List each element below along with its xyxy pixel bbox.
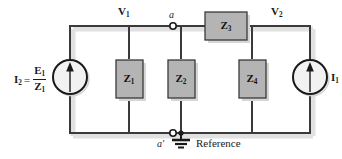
source-label-left: I2 = E1 Z1 <box>14 65 46 95</box>
node-a-circle <box>170 23 176 29</box>
node-label-a-prime: a′ <box>157 139 164 149</box>
source-left-lhs: I2 <box>14 73 22 87</box>
node-terminal-a <box>170 23 176 29</box>
fraction-numerator: E1 <box>33 65 46 79</box>
source-left-fraction: E1 Z1 <box>33 65 46 95</box>
impedance-label-z3: Z3 <box>221 19 232 33</box>
source-label-right: I1 <box>331 72 339 85</box>
impedance-label-z1: Z1 <box>124 72 135 86</box>
node-label-a: a <box>169 10 174 20</box>
current-source-right-symbol <box>293 60 329 96</box>
node-voltage-label-v2: V2 <box>271 6 283 19</box>
node-terminal-a-prime <box>170 130 176 136</box>
node-voltage-label-v1: V1 <box>118 6 130 19</box>
node-a-prime-circle <box>170 130 176 136</box>
ground-reference-label: Reference <box>196 138 241 149</box>
current-source-left-symbol <box>53 60 89 96</box>
circuit-diagram: V1 V2 a a′ Reference Z1 Z2 Z3 Z4 I2 = E1… <box>0 0 342 159</box>
source-left-equals: = <box>24 74 30 86</box>
impedance-label-z4: Z4 <box>247 72 258 86</box>
circuit-schematic-svg <box>0 0 342 159</box>
impedance-label-z2: Z2 <box>176 72 187 86</box>
fraction-denominator: Z1 <box>33 80 46 94</box>
